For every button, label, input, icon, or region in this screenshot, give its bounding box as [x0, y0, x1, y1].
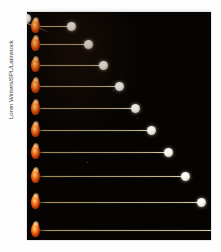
strobe-row	[31, 18, 81, 34]
ball-marker	[84, 40, 93, 49]
motion-streak	[37, 65, 100, 66]
strobe-row	[31, 144, 178, 160]
motion-streak	[37, 86, 116, 87]
motion-streak	[37, 130, 148, 131]
strobe-row	[31, 78, 129, 94]
motion-streak	[37, 26, 68, 27]
strobe-row	[31, 222, 211, 238]
motion-streak	[37, 152, 165, 153]
motion-streak	[37, 230, 211, 231]
ball-marker	[181, 172, 190, 181]
ball-marker	[99, 61, 108, 70]
ball-marker	[115, 82, 124, 91]
flame-emitter-icon	[31, 145, 40, 159]
image-canvas: Loren Winters/SPL/Latinstock	[0, 0, 221, 252]
strobe-row	[31, 168, 195, 184]
strobe-row	[31, 57, 113, 73]
motion-streak	[37, 176, 182, 177]
flame-emitter-icon	[31, 101, 40, 115]
photo-credit-text: Loren Winters/SPL/Latinstock	[4, 9, 18, 119]
flame-emitter-icon	[31, 58, 40, 72]
flame-emitter-icon	[31, 195, 40, 209]
ball-marker	[131, 104, 140, 113]
ball-marker	[67, 22, 76, 31]
motion-streak	[37, 202, 198, 203]
strobe-row	[31, 194, 211, 210]
stroboscopic-photograph	[27, 12, 211, 240]
flame-emitter-icon	[31, 19, 40, 33]
flame-emitter-icon	[31, 79, 40, 93]
ball-marker	[164, 148, 173, 157]
flame-emitter-icon	[31, 37, 40, 51]
strobe-row	[31, 100, 145, 116]
flame-emitter-icon	[31, 169, 40, 183]
strobe-row	[31, 36, 98, 52]
ball-marker	[197, 198, 206, 207]
dust-speck	[137, 118, 138, 119]
motion-streak	[37, 108, 132, 109]
flame-emitter-icon	[31, 123, 40, 137]
strobe-row	[31, 122, 161, 138]
ball-marker	[147, 126, 156, 135]
dust-speck	[87, 162, 88, 163]
motion-streak	[37, 44, 85, 45]
flame-emitter-icon	[31, 223, 40, 237]
